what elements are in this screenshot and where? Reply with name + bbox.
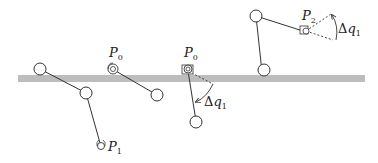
svg-text:P2: P2 xyxy=(301,8,316,25)
base-joint-icon xyxy=(34,63,46,75)
label-p1: P xyxy=(107,139,117,154)
label-p2: P xyxy=(301,8,311,23)
elbow-joint-icon xyxy=(190,116,202,128)
gripper-icon xyxy=(97,140,106,150)
gripper-icon xyxy=(300,26,309,34)
stage-arm-rotate: P0 Δq1 xyxy=(182,45,227,128)
gripper-icon xyxy=(108,63,118,74)
label-delta-q1-second: Δ xyxy=(338,21,347,36)
stage-arm-p2: P2 Δq1 xyxy=(250,8,361,76)
stage-arm-p0: P0 xyxy=(108,45,163,101)
svg-text:Δq1: Δq1 xyxy=(204,94,227,111)
label-p0-first: P xyxy=(108,45,118,60)
svg-text:P1: P1 xyxy=(107,139,122,156)
gripper-icon xyxy=(182,65,193,74)
label-delta-q1-first: Δ xyxy=(204,94,213,109)
elbow-joint-icon xyxy=(80,87,92,99)
elbow-joint-icon xyxy=(258,64,270,76)
ground-bar xyxy=(18,75,365,82)
robot-arm-diagram: P1 P0 P0 Δq1 xyxy=(0,0,378,163)
svg-text:P0: P0 xyxy=(108,45,123,62)
label-p0-second: P xyxy=(183,45,193,60)
elbow-joint-icon xyxy=(151,89,163,101)
base-joint-icon xyxy=(250,10,262,22)
svg-text:P0: P0 xyxy=(183,45,198,62)
svg-text:Δq1: Δq1 xyxy=(338,21,361,38)
